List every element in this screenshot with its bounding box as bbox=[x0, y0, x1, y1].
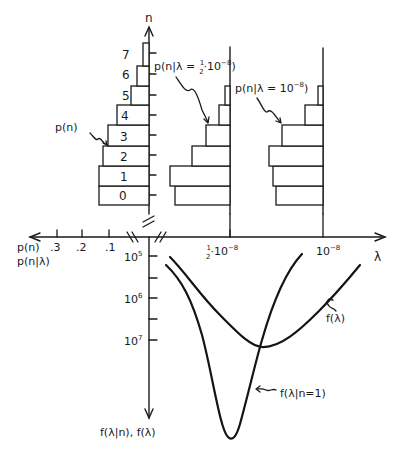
x-tick-0.2: .2 bbox=[76, 241, 87, 254]
y-tick-1e6: 106 bbox=[124, 292, 143, 306]
bin-label-1: 1 bbox=[120, 170, 128, 184]
bar-n5 bbox=[225, 86, 230, 105]
bar-n7 bbox=[143, 43, 149, 66]
histogram-p-n-given-half: p(n|λ = 12·10−8) bbox=[154, 47, 236, 214]
bar-n2 bbox=[192, 146, 230, 166]
histogram-p-n: 0 1 2 3 4 5 6 7 p(n) bbox=[55, 43, 149, 205]
x-tick-0.3: .3 bbox=[50, 241, 61, 254]
curve-f-lambda-given-n bbox=[166, 254, 302, 439]
x-tick-half-1e-8: 12·10−8 bbox=[206, 244, 238, 261]
curves: f(λ) f(λ|n=1) bbox=[166, 254, 360, 439]
bar-n5 bbox=[131, 86, 149, 105]
annotation-p-n: p(n) bbox=[55, 121, 78, 134]
y-tick-1e7: 107 bbox=[124, 334, 142, 348]
label-f-lambda-given-n: f(λ|n=1) bbox=[280, 387, 326, 400]
bin-label-7: 7 bbox=[122, 48, 130, 62]
annotation-arrow bbox=[257, 389, 276, 391]
annotation-p-full: p(n|λ = 10−8) bbox=[235, 81, 308, 95]
figure: n 0 1 2 3 4 5 6 7 p(n) bbox=[0, 0, 399, 451]
bar-n1 bbox=[170, 166, 230, 186]
bar-n1 bbox=[273, 166, 323, 186]
label-f-lambda: f(λ) bbox=[326, 312, 345, 325]
y-tick-1e5: 105 bbox=[124, 250, 142, 264]
horizontal-axis: p(n) p(n|λ) .3 .2 .1 12·10−8 10−8 λ bbox=[17, 214, 385, 268]
bin-label-0: 0 bbox=[119, 189, 127, 203]
bar-n6 bbox=[137, 66, 149, 86]
annotation-arrow bbox=[176, 77, 208, 122]
bar-n4 bbox=[219, 105, 230, 125]
bin-label-2: 2 bbox=[120, 150, 128, 164]
histogram-p-n-given-full: p(n|λ = 10−8) bbox=[235, 48, 323, 214]
lambda-axis-label: λ bbox=[374, 250, 381, 264]
bar-n0 bbox=[175, 186, 230, 205]
annotation-arrow bbox=[257, 98, 280, 122]
bar-n3 bbox=[206, 125, 230, 146]
x-tick-1e-8: 10−8 bbox=[316, 244, 340, 258]
bin-label-6: 6 bbox=[122, 68, 130, 82]
bar-n3 bbox=[282, 125, 323, 146]
bin-label-4: 4 bbox=[121, 109, 129, 123]
bar-n5 bbox=[318, 86, 323, 105]
bar-n0 bbox=[276, 186, 323, 205]
bar-n2 bbox=[269, 146, 323, 166]
bin-label-3: 3 bbox=[120, 130, 128, 144]
f-axis-label: f(λ|n), f(λ) bbox=[100, 426, 156, 439]
x-tick-0.1: .1 bbox=[105, 241, 116, 254]
n-axis-label: n bbox=[145, 11, 153, 25]
bar-n3 bbox=[108, 125, 149, 146]
x-axis-left-label-2: p(n|λ) bbox=[17, 255, 50, 268]
bin-label-5: 5 bbox=[122, 89, 130, 103]
bar-n4 bbox=[305, 105, 323, 125]
x-axis-left-label-1: p(n) bbox=[17, 241, 40, 254]
f-axis: 105 106 107 f(λ|n), f(λ) bbox=[100, 237, 157, 439]
annotation-p-half: p(n|λ = 12·10−8) bbox=[154, 59, 236, 76]
